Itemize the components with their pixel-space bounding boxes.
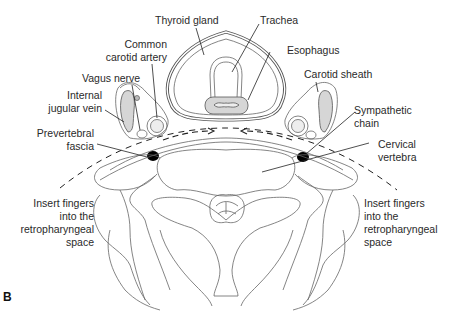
right-vagus-nerve [306, 131, 316, 139]
vertebral-body [157, 149, 295, 196]
label-cervical-2: vertebra [378, 151, 417, 164]
label-sympathetic-1: Sympathetic [354, 104, 412, 117]
label-insert-left-4: space [10, 236, 94, 249]
label-common-carotid-1: Common [107, 38, 167, 51]
left-vagus-nerve [137, 130, 147, 138]
label-vagus-nerve: Vagus nerve [82, 72, 140, 85]
label-prevertebral-2: fascia [20, 140, 94, 153]
panel-label: B [3, 290, 12, 304]
label-insert-right-2: into the [364, 210, 398, 223]
spinal-cord [210, 195, 245, 223]
label-cervical-1: Cervical [378, 138, 416, 151]
left-dashed-arrow [163, 131, 212, 140]
label-internal-jugular-2: jugular vein [30, 102, 102, 115]
label-thyroid-gland: Thyroid gland [155, 14, 219, 27]
label-internal-jugular-1: Internal [40, 89, 102, 102]
label-carotid-sheath: Carotid sheath [304, 68, 372, 81]
label-esophagus: Esophagus [287, 44, 340, 57]
label-insert-left-3: retropharyngeal [10, 223, 94, 236]
label-insert-right-4: space [364, 236, 392, 249]
label-insert-left-1: Insert fingers [10, 197, 94, 210]
label-trachea: Trachea [260, 14, 298, 27]
right-dashed-arrow [243, 131, 292, 140]
label-insert-left-2: into the [10, 210, 94, 223]
label-insert-right-1: Insert fingers [364, 197, 425, 210]
label-insert-right-3: retropharyngeal [364, 223, 438, 236]
label-sympathetic-2: chain [354, 117, 379, 130]
label-prevertebral-1: Prevertebral [20, 127, 94, 140]
label-common-carotid-2: carotid artery [87, 51, 167, 64]
outer-dashed-arc [60, 128, 397, 190]
